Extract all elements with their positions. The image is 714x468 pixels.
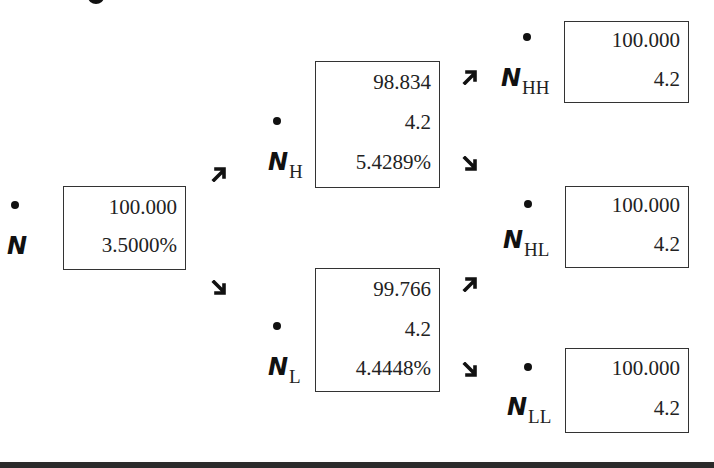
node-nhh-coupon: 4.2 — [654, 67, 680, 91]
node-nhl-bullet-icon — [524, 200, 532, 208]
node-nhh-bullet-icon — [523, 33, 531, 41]
node-nh-box: 98.834 4.2 5.4289% — [315, 61, 440, 188]
node-nll-label: NLL — [507, 395, 551, 419]
node-nhl-label: NHL — [503, 228, 549, 252]
up-right-arrow-icon — [462, 69, 478, 85]
node-nhl-box: 100.000 4.2 — [565, 186, 689, 268]
down-right-arrow-icon — [462, 156, 478, 172]
node-nhh-box: 100.000 4.2 — [564, 21, 689, 103]
node-nhh-subscript: HH — [522, 77, 549, 98]
bottom-rule — [0, 462, 714, 468]
node-nhl-subscript: HL — [524, 239, 549, 260]
node-n-symbol: N — [7, 232, 27, 260]
node-n-box: 100.000 3.5000% — [63, 186, 186, 270]
node-nll-coupon: 4.2 — [654, 396, 680, 420]
down-right-arrow-icon — [211, 280, 227, 296]
node-nl-box: 99.766 4.2 4.4448% — [315, 268, 440, 392]
node-nh-coupon: 4.2 — [405, 110, 431, 134]
node-nh-symbol: N — [268, 148, 288, 176]
node-nhl-symbol: N — [503, 226, 523, 254]
node-nll-price: 100.000 — [612, 356, 680, 380]
node-nl-bullet-icon — [273, 322, 281, 330]
node-nl-coupon: 4.2 — [405, 317, 431, 341]
node-nh-subscript: H — [289, 161, 303, 182]
node-nll-subscript: LL — [528, 406, 551, 427]
binomial-tree-diagram: N 100.000 3.5000% NH 98.834 4.2 5.4289% … — [0, 0, 714, 468]
down-right-arrow-icon — [462, 362, 478, 378]
node-n-rate: 3.5000% — [102, 233, 177, 257]
node-nl-price: 99.766 — [373, 277, 431, 301]
up-right-arrow-icon — [462, 276, 478, 292]
up-right-arrow-icon — [211, 166, 227, 182]
node-nl-symbol: N — [268, 353, 288, 381]
node-nhh-price: 100.000 — [612, 28, 680, 52]
node-nhh-symbol: N — [501, 64, 521, 92]
node-nhh-label: NHH — [501, 66, 550, 90]
node-n-bullet-icon — [11, 201, 19, 209]
node-nll-symbol: N — [507, 393, 527, 421]
node-nhl-coupon: 4.2 — [654, 232, 680, 256]
node-nh-bullet-icon — [273, 117, 281, 125]
node-nl-subscript: L — [289, 366, 301, 387]
node-nh-label: NH — [268, 150, 303, 174]
node-nhl-price: 100.000 — [612, 193, 680, 217]
node-nl-rate: 4.4448% — [356, 356, 431, 380]
cropped-bullet-glyph — [88, 0, 104, 4]
node-nh-rate: 5.4289% — [356, 150, 431, 174]
node-nll-bullet-icon — [524, 363, 532, 371]
node-n-label: N — [7, 234, 28, 258]
node-n-price: 100.000 — [109, 195, 177, 219]
node-nll-box: 100.000 4.2 — [565, 348, 689, 433]
node-nl-label: NL — [268, 355, 301, 379]
node-nh-price: 98.834 — [373, 70, 431, 94]
